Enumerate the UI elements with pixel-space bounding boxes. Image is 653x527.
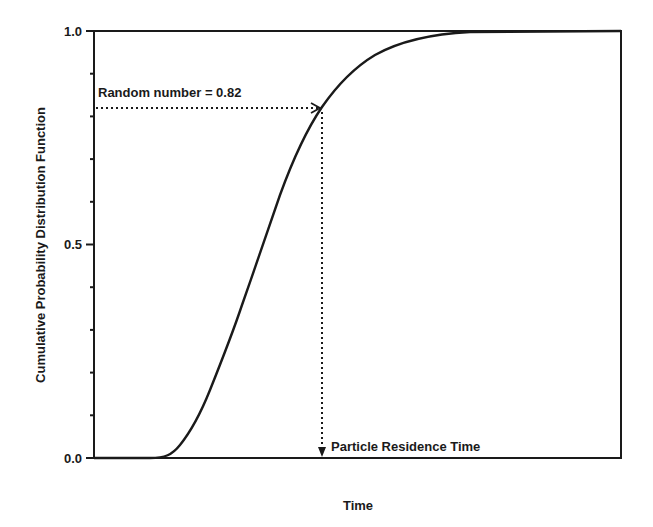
- y-axis-ticks: [86, 31, 94, 458]
- y-tick-label-0: 0.0: [64, 451, 82, 466]
- x-axis-title: Time: [343, 498, 373, 513]
- arrowhead-down-icon: [318, 447, 326, 457]
- y-axis-title: Cumulative Probability Distribution Func…: [33, 107, 48, 383]
- residence-time-label: Particle Residence Time: [331, 439, 480, 454]
- cdf-chart: 1.0 0.5 0.0 Cumulative Probability Distr…: [0, 0, 653, 527]
- y-tick-label-0-5: 0.5: [64, 237, 82, 252]
- random-number-label: Random number = 0.82: [98, 85, 241, 100]
- y-tick-label-1: 1.0: [64, 24, 82, 39]
